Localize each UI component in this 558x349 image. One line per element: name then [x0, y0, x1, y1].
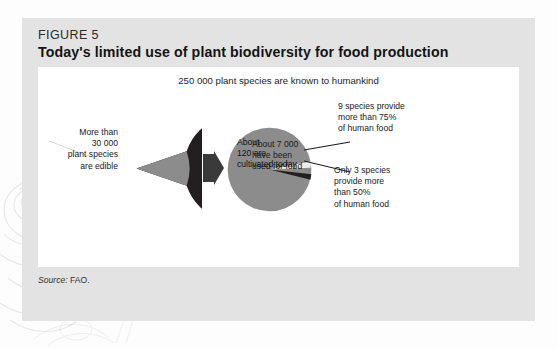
figure-header: FIGURE 5 Today's limited use of plant bi…	[38, 28, 525, 60]
callout-cultivated-line-3: cultivated today	[237, 159, 321, 170]
callout-edible-line-1: More than	[22, 127, 118, 138]
callout-nine-line-3: of human food	[338, 123, 448, 134]
callout-nine-line-2: more than 75%	[338, 112, 448, 123]
callout-three-line-2: provide more	[334, 176, 444, 187]
figure-title: Today's limited use of plant biodiversit…	[38, 44, 525, 60]
chart-panel: 250 000 plant species are known to human…	[38, 67, 519, 267]
callout-three-line-4: of human food	[334, 199, 444, 210]
callout-edible-line-4: are edible	[22, 161, 118, 172]
callout-cultivated-line-2: 120 are	[237, 148, 321, 159]
callout-three-line-3: than 50%	[334, 187, 444, 198]
figure-number: FIGURE 5	[38, 28, 525, 42]
chart-subtitle: 250 000 plant species are known to human…	[38, 75, 519, 86]
callout-edible-species: More than 30 000 plant species are edibl…	[22, 127, 118, 172]
slice-used-for-food	[137, 151, 190, 186]
callout-cultivated-line-1: About	[237, 137, 321, 148]
callout-three-species: Only 3 species provide more than 50% of …	[334, 165, 444, 210]
callout-three-line-1: Only 3 species	[334, 165, 444, 176]
chart-area: 250 000 plant species are known to human…	[38, 67, 519, 267]
flow-arrow-icon	[201, 151, 225, 185]
source-note: Source: FAO.	[38, 275, 90, 285]
callout-nine-line-1: 9 species provide	[338, 101, 448, 112]
callout-nine-species: 9 species provide more than 75% of human…	[338, 101, 448, 135]
source-label: Source:	[38, 275, 68, 285]
callout-edible-line-2: 30 000	[22, 138, 118, 149]
callout-edible-line-3: plant species	[22, 149, 118, 160]
callout-cultivated-today: About 120 are cultivated today	[237, 137, 321, 171]
figure-card: FIGURE 5 Today's limited use of plant bi…	[22, 18, 535, 321]
source-value: FAO.	[68, 275, 90, 285]
